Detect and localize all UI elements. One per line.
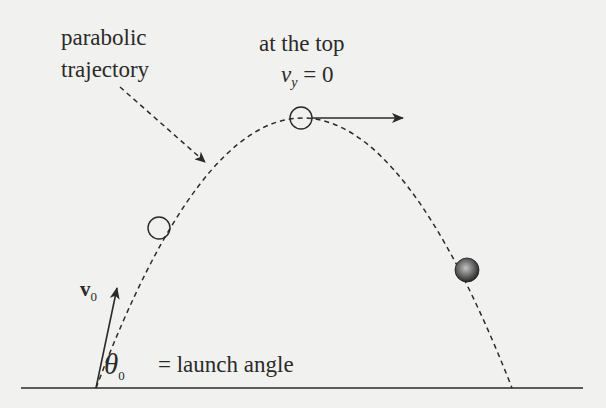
initial-velocity-label: v0: [80, 279, 97, 303]
projectile-ball: [455, 258, 479, 282]
at-the-top-label: at the top: [259, 32, 345, 55]
vy-variable: v: [281, 62, 291, 87]
theta-subscript: 0: [118, 368, 125, 383]
parabolic-label: parabolic: [61, 26, 147, 49]
trajectory-label: trajectory: [61, 58, 149, 81]
v0-variable: v: [80, 277, 91, 301]
parabolic-trajectory-path: [96, 118, 512, 388]
launch-angle-label: = launch angle: [158, 353, 294, 376]
launch-angle-symbol: θ0: [104, 350, 125, 382]
projectile-diagram: parabolic trajectory at the top vy = 0 v…: [0, 0, 606, 408]
trajectory-pointer-arrow: [120, 87, 205, 162]
v0-subscript: 0: [91, 289, 98, 304]
vy-equals-zero-label: vy = 0: [281, 63, 333, 90]
ascending-position-circle: [148, 217, 170, 239]
theta-variable: θ: [104, 348, 118, 380]
vy-equation: = 0: [297, 62, 333, 87]
